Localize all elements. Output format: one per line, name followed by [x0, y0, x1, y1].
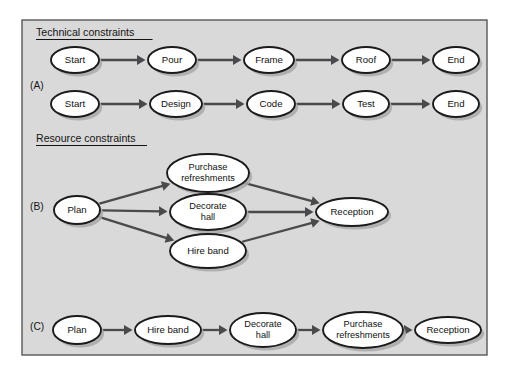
edge-b-plan-to-b-decorate	[101, 210, 160, 211]
node-label: hall	[201, 212, 215, 222]
row-label-row-c: (C)	[30, 321, 44, 332]
node-label: Reception	[426, 324, 469, 335]
node-label: Start	[65, 54, 86, 65]
node-label: Code	[260, 98, 283, 109]
node-label: Frame	[255, 54, 283, 65]
node-label: Pour	[162, 54, 183, 65]
node-label: Hire band	[187, 245, 229, 256]
node-label: refreshments	[181, 173, 235, 183]
node-label: Decorate	[244, 319, 281, 329]
node-label: Purchase	[189, 162, 228, 172]
section-heading-technical: Technical constraints	[36, 26, 134, 38]
node-label: End	[447, 54, 464, 65]
section-heading-resource: Resource constraints	[36, 132, 136, 144]
node-label: Hire band	[147, 324, 189, 335]
node-label: Decorate	[189, 201, 226, 211]
node-label: Reception	[330, 206, 373, 217]
node-label: hall	[256, 330, 270, 340]
node-label: End	[447, 98, 464, 109]
node-label: Plan	[67, 324, 86, 335]
row-label-row-b: (B)	[30, 201, 44, 212]
precedence-diagram: Technical constraintsResource constraint…	[0, 0, 507, 374]
node-label: Roof	[356, 54, 377, 65]
node-label: Test	[357, 98, 375, 109]
node-label: refreshments	[336, 330, 390, 340]
node-label: Start	[65, 98, 86, 109]
row-label-row-a: (A)	[30, 80, 44, 91]
node-label: Plan	[67, 204, 86, 215]
node-label: Design	[161, 98, 191, 109]
node-label: Purchase	[344, 319, 383, 329]
figure-root: Technical constraintsResource constraint…	[0, 0, 507, 374]
